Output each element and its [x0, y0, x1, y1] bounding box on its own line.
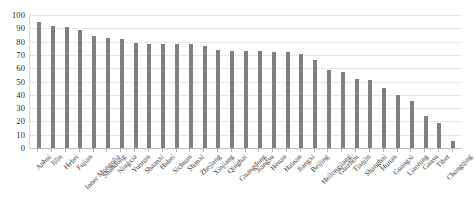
bar-slot [60, 15, 74, 148]
label-slot: Shaanxi [142, 152, 156, 215]
label-slot: Guangdong [238, 152, 252, 215]
bar-slot [308, 15, 322, 148]
bar[interactable] [230, 51, 234, 148]
y-axis-tick-label: 50 [16, 77, 25, 86]
bar[interactable] [286, 52, 290, 148]
bar-slot [391, 15, 405, 148]
bar-slot [87, 15, 101, 148]
label-slot: Zhejiang [197, 152, 211, 215]
y-axis-tick-label: 80 [16, 37, 25, 46]
bar-slot [364, 15, 378, 148]
label-slot: Anhui [31, 152, 45, 215]
label-slot: Beijing [307, 152, 321, 215]
label-slot: Yunnan [128, 152, 142, 215]
bar-slot [433, 15, 447, 148]
y-axis-tick-label: 90 [16, 24, 25, 33]
label-slot: Jiangsu [252, 152, 266, 215]
bar-slot [129, 15, 143, 148]
bar[interactable] [203, 46, 207, 148]
y-axis-tick-label: 30 [16, 104, 25, 113]
bar-slot [115, 15, 129, 148]
label-slot: Ningxia [114, 152, 128, 215]
label-slot: Tibet [432, 152, 446, 215]
bar-slot [294, 15, 308, 148]
bar[interactable] [175, 44, 179, 148]
bar[interactable] [134, 43, 138, 148]
bar-slot [350, 15, 364, 148]
bar[interactable] [451, 141, 455, 148]
x-axis-category-label: Chongqing [445, 153, 474, 182]
bar-slot [419, 15, 433, 148]
bar-slot [239, 15, 253, 148]
bar[interactable] [106, 38, 110, 148]
bar-slot [253, 15, 267, 148]
bar-slot [267, 15, 281, 148]
label-slot: Hebei [59, 152, 73, 215]
label-slot: Inner Mongolia [86, 152, 100, 215]
label-slot: Hainan [280, 152, 294, 215]
bar[interactable] [92, 36, 96, 148]
y-axis-tick-label: 20 [16, 117, 25, 126]
bar[interactable] [272, 52, 276, 148]
bar-slot [32, 15, 46, 148]
bar[interactable] [161, 44, 165, 148]
bar-slot [405, 15, 419, 148]
label-slot: Heilongjiang [321, 152, 335, 215]
bar[interactable] [78, 30, 82, 148]
bars-container [30, 15, 462, 148]
bar-slot [377, 15, 391, 148]
bar[interactable] [299, 54, 303, 148]
bar[interactable] [424, 116, 428, 148]
label-slot: Shanghai [363, 152, 377, 215]
label-slot: Qinghai [224, 152, 238, 215]
label-slot: Guangxi [390, 152, 404, 215]
label-slot: Sichuan [169, 152, 183, 215]
bar-slot [322, 15, 336, 148]
bar[interactable] [51, 26, 55, 148]
bar[interactable] [341, 72, 345, 148]
y-axis-tick-label: 60 [16, 64, 25, 73]
plot-area [29, 15, 462, 148]
y-axis-tick-label: 10 [16, 130, 25, 139]
bar[interactable] [216, 50, 220, 148]
y-axis-tick-label: 40 [16, 91, 25, 100]
label-slot: Henan [266, 152, 280, 215]
bar[interactable] [244, 51, 248, 148]
label-slot: Guizhou [335, 152, 349, 215]
bar[interactable] [368, 80, 372, 148]
bar-slot [46, 15, 60, 148]
bar[interactable] [65, 27, 69, 148]
bar-slot [281, 15, 295, 148]
bar[interactable] [382, 88, 386, 148]
bar[interactable] [327, 70, 331, 148]
label-slot: Hunan [376, 152, 390, 215]
bar-slot [170, 15, 184, 148]
y-axis-tick-label: 0 [21, 144, 25, 153]
bar[interactable] [147, 44, 151, 148]
bar-slot [446, 15, 460, 148]
bar[interactable] [37, 22, 41, 148]
label-slot: Shanxi [183, 152, 197, 215]
bar-slot [184, 15, 198, 148]
label-slot: Jilin [45, 152, 59, 215]
y-axis: 1009080706050403020100 [0, 0, 28, 148]
bar-slot [143, 15, 157, 148]
label-slot: Tianjin [349, 152, 363, 215]
bar-slot [336, 15, 350, 148]
label-slot: Chongqing [445, 152, 459, 215]
label-slot: Hubei [155, 152, 169, 215]
bar[interactable] [410, 101, 414, 148]
bar-slot [101, 15, 115, 148]
y-axis-tick-label: 100 [12, 11, 25, 20]
bar[interactable] [437, 123, 441, 148]
label-slot: Gansu [418, 152, 432, 215]
bar[interactable] [189, 44, 193, 148]
bar[interactable] [258, 51, 262, 148]
bar[interactable] [120, 39, 124, 148]
bar[interactable] [396, 95, 400, 148]
x-axis-labels: AnhuiJilinHebeiFujianInner MongoliaShand… [29, 152, 461, 215]
label-slot: Jiangxi [293, 152, 307, 215]
bar[interactable] [355, 79, 359, 148]
bar[interactable] [313, 60, 317, 148]
